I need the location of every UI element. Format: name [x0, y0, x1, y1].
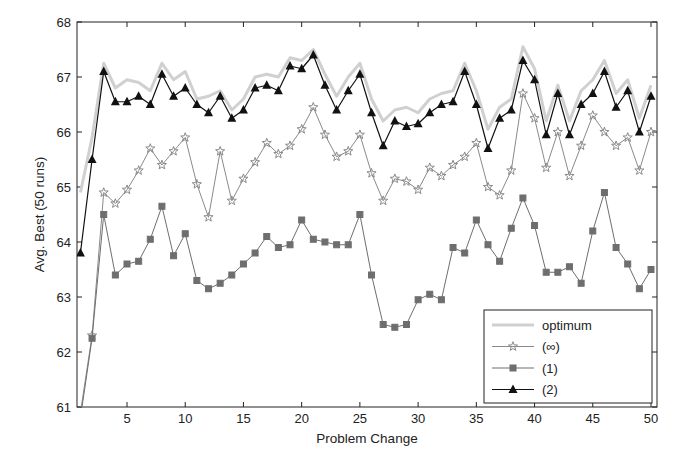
- square-marker: [380, 322, 386, 328]
- legend-label: (∞): [542, 339, 560, 354]
- x-tick-label: 20: [294, 411, 308, 426]
- square-marker: [322, 239, 328, 245]
- square-marker: [264, 234, 270, 240]
- square-marker: [450, 245, 456, 251]
- square-marker: [648, 267, 654, 273]
- x-tick-label: 25: [353, 411, 367, 426]
- square-marker: [136, 258, 142, 264]
- x-axis-label: Problem Change: [316, 431, 417, 446]
- square-marker: [485, 242, 491, 248]
- x-tick-label: 45: [586, 411, 600, 426]
- y-tick-label: 65: [57, 180, 71, 195]
- square-marker: [427, 291, 433, 297]
- square-marker: [299, 217, 305, 223]
- y-tick-label: 62: [57, 345, 71, 360]
- square-marker: [275, 245, 281, 251]
- square-marker: [171, 253, 177, 259]
- legend: optimum(∞)(1)(2): [484, 310, 652, 403]
- x-tick-label: 30: [411, 411, 425, 426]
- square-marker: [240, 261, 246, 267]
- y-tick-label: 64: [57, 235, 71, 250]
- square-marker: [194, 278, 200, 284]
- x-tick-label: 50: [644, 411, 658, 426]
- square-marker: [101, 212, 107, 218]
- x-tick-label: 5: [123, 411, 130, 426]
- square-marker: [89, 335, 95, 341]
- square-marker: [497, 258, 503, 264]
- square-marker: [206, 286, 212, 292]
- square-marker: [77, 415, 83, 421]
- x-tick-label: 40: [527, 411, 541, 426]
- y-axis-label: Avg. Best (50 runs): [32, 157, 47, 272]
- square-marker: [112, 272, 118, 278]
- square-marker: [345, 242, 351, 248]
- legend-label: (2): [542, 382, 558, 397]
- y-tick-label: 68: [57, 15, 71, 30]
- square-marker: [159, 203, 165, 209]
- y-tick-label: 61: [57, 400, 71, 415]
- square-marker: [590, 228, 596, 234]
- x-tick-label: 10: [178, 411, 192, 426]
- y-tick-label: 66: [57, 125, 71, 140]
- square-marker: [578, 280, 584, 286]
- square-marker: [403, 322, 409, 328]
- square-marker: [310, 236, 316, 242]
- square-marker: [438, 297, 444, 303]
- square-marker: [392, 324, 398, 330]
- square-marker: [510, 365, 516, 371]
- square-marker: [334, 242, 340, 248]
- line-chart: 61626364656667685101520253035404550 opti…: [0, 0, 682, 471]
- chart-canvas: 61626364656667685101520253035404550 opti…: [0, 0, 682, 471]
- square-marker: [229, 272, 235, 278]
- square-marker: [636, 286, 642, 292]
- x-tick-label: 15: [236, 411, 250, 426]
- legend-label: optimum: [542, 318, 592, 333]
- square-marker: [625, 261, 631, 267]
- y-tick-label: 63: [57, 290, 71, 305]
- square-marker: [613, 245, 619, 251]
- square-marker: [601, 190, 607, 196]
- y-tick-label: 67: [57, 70, 71, 85]
- legend-label: (1): [542, 361, 558, 376]
- square-marker: [566, 264, 572, 270]
- square-marker: [147, 236, 153, 242]
- square-marker: [520, 195, 526, 201]
- square-marker: [415, 297, 421, 303]
- square-marker: [473, 217, 479, 223]
- square-marker: [543, 269, 549, 275]
- square-marker: [217, 280, 223, 286]
- square-marker: [508, 225, 514, 231]
- square-marker: [555, 269, 561, 275]
- square-marker: [287, 242, 293, 248]
- square-marker: [532, 223, 538, 229]
- square-marker: [462, 250, 468, 256]
- square-marker: [369, 272, 375, 278]
- square-marker: [182, 231, 188, 237]
- square-marker: [124, 261, 130, 267]
- square-marker: [357, 212, 363, 218]
- star-marker: [76, 408, 85, 417]
- x-tick-label: 35: [469, 411, 483, 426]
- square-marker: [252, 250, 258, 256]
